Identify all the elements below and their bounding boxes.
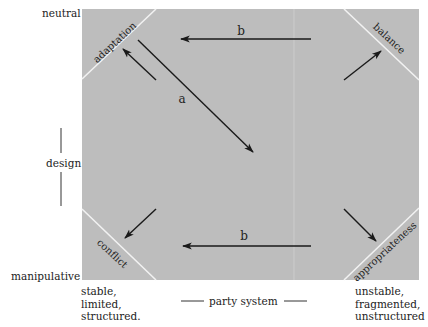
- x-label-party-system: party system: [209, 295, 278, 307]
- x-label-right-line-3: unstructured: [355, 310, 425, 323]
- arrow-label-b-top: b: [237, 24, 245, 38]
- x-label-right-line-2: fragmented,: [355, 298, 425, 311]
- y-label-manipulative: manipulative: [11, 270, 80, 282]
- x-label-left-line-1: stable,: [81, 285, 141, 298]
- diagram-box: [82, 9, 419, 280]
- y-label-neutral: neutral: [42, 7, 81, 19]
- x-label-right: unstable, fragmented, unstructured: [355, 285, 425, 323]
- x-label-left-line-2: limited,: [81, 298, 141, 311]
- x-label-left: stable, limited, structured.: [81, 285, 141, 323]
- x-label-left-line-3: structured.: [81, 310, 141, 323]
- y-label-design: design: [46, 157, 81, 169]
- arrow-label-a: a: [178, 92, 185, 106]
- arrow-label-b-bottom: b: [240, 229, 248, 243]
- x-label-right-line-1: unstable,: [355, 285, 425, 298]
